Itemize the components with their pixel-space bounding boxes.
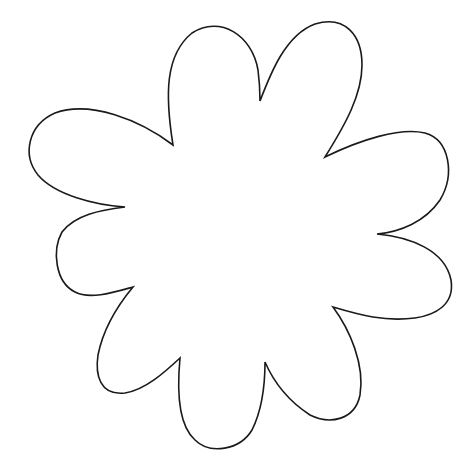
flower-canvas — [0, 0, 474, 473]
